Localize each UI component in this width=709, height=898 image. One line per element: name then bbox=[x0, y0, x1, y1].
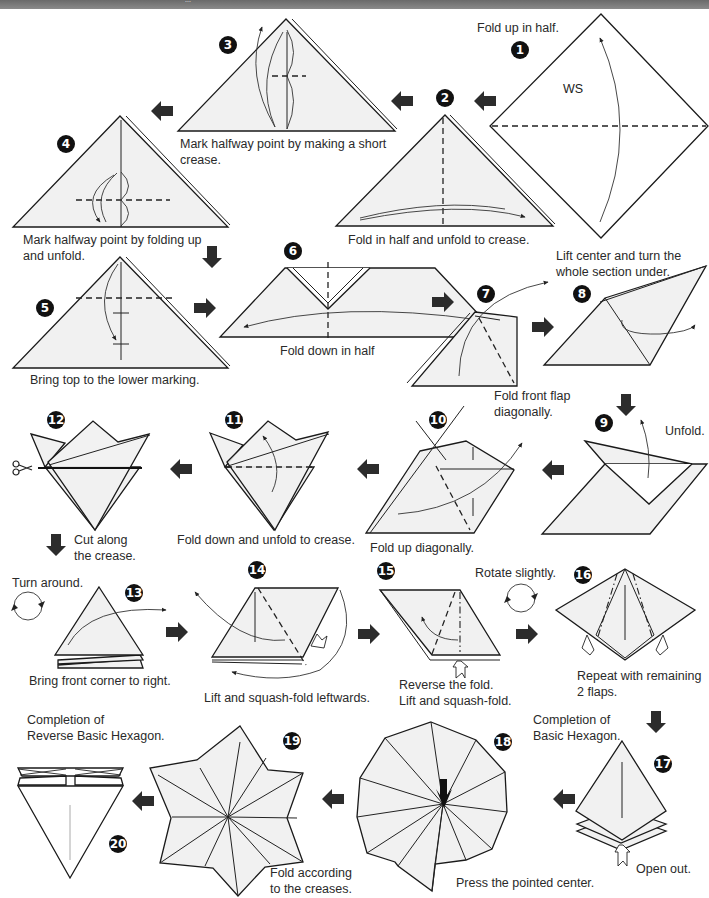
step-number-8: 8 bbox=[573, 285, 591, 303]
step-number-9: 9 bbox=[595, 414, 613, 432]
arrow-17-18 bbox=[553, 789, 575, 809]
step-12-label: Cut along the crease. bbox=[74, 532, 136, 564]
step-20-diagram: 20 bbox=[18, 768, 127, 878]
step-17-label: Open out. bbox=[636, 861, 691, 877]
svg-text:11: 11 bbox=[226, 413, 243, 427]
step-8-diagram: 8 bbox=[544, 266, 706, 365]
push-arrow-icon bbox=[453, 661, 468, 678]
step-11-diagram: 11 bbox=[210, 411, 329, 530]
arrow-3-4 bbox=[151, 101, 173, 121]
svg-text:20: 20 bbox=[110, 837, 127, 851]
step-number-6: 6 bbox=[284, 242, 302, 260]
step-number-20: 20 bbox=[109, 835, 127, 853]
step-9-label: Unfold. bbox=[665, 423, 705, 439]
step-3-label: Mark halfway point by making a short cre… bbox=[180, 136, 386, 168]
step-number-11: 11 bbox=[225, 411, 243, 429]
ws-label: WS bbox=[563, 82, 583, 96]
step-number-7: 7 bbox=[477, 285, 495, 303]
arrow-11-12 bbox=[170, 459, 192, 479]
step-20-label: Completion of Reverse Basic Hexagon. bbox=[27, 712, 165, 744]
svg-text:4: 4 bbox=[62, 137, 70, 151]
step-13-pre-label: Turn around. bbox=[12, 575, 83, 591]
step-3-diagram: 3 bbox=[178, 19, 397, 131]
arrow-16-17 bbox=[646, 711, 666, 733]
svg-text:18: 18 bbox=[495, 735, 512, 749]
arrow-10-11 bbox=[357, 459, 379, 479]
arrow-2-3 bbox=[391, 91, 413, 111]
arrow-15-16 bbox=[516, 624, 538, 644]
svg-text:10: 10 bbox=[430, 413, 447, 427]
diagram-canvas: WS 1 2 3 4 bbox=[0, 0, 709, 898]
arrow-18-19 bbox=[322, 789, 344, 809]
arrow-13-14 bbox=[166, 622, 188, 642]
step-number-17: 17 bbox=[654, 755, 672, 773]
step-18-label: Press the pointed center. bbox=[456, 875, 594, 891]
step-10-diagram: 10 bbox=[366, 406, 522, 533]
svg-text:7: 7 bbox=[482, 287, 490, 301]
step-1-label: Fold up in half. bbox=[477, 20, 559, 36]
arrow-7-8 bbox=[532, 317, 554, 337]
step-number-10: 10 bbox=[429, 411, 447, 429]
svg-text:12: 12 bbox=[48, 413, 65, 427]
svg-text:16: 16 bbox=[575, 568, 592, 582]
arrow-5-6 bbox=[194, 298, 216, 318]
step-11-label: Fold down and unfold to crease. bbox=[177, 532, 355, 548]
step-number-13: 13 bbox=[125, 584, 143, 602]
rotate-icon bbox=[504, 584, 538, 612]
arrow-8-9 bbox=[616, 394, 636, 416]
step-4-label: Mark halfway point by folding up and unf… bbox=[23, 232, 202, 264]
step-14-diagram: 14 bbox=[195, 561, 347, 678]
push-arrow-icon bbox=[615, 845, 630, 866]
arrow-19-20 bbox=[132, 791, 154, 811]
push-arrow-icon bbox=[656, 635, 668, 655]
svg-text:2: 2 bbox=[441, 91, 449, 105]
svg-text:8: 8 bbox=[578, 287, 586, 301]
step-19-label: Fold according to the creases. bbox=[270, 865, 352, 897]
step-5-label: Bring top to the lower marking. bbox=[30, 372, 200, 388]
step-4-diagram: 4 bbox=[13, 116, 230, 227]
arrow-9-10 bbox=[542, 460, 564, 480]
svg-text:13: 13 bbox=[126, 586, 143, 600]
arrow-12-13 bbox=[46, 534, 66, 556]
svg-text:6: 6 bbox=[289, 244, 297, 258]
svg-text:14: 14 bbox=[249, 563, 266, 577]
step-7-label: Fold front flap diagonally. bbox=[494, 388, 570, 420]
step-15-pre-label: Rotate slightly. bbox=[475, 565, 556, 581]
svg-text:1: 1 bbox=[516, 43, 524, 57]
step-8-label: Lift center and turn the whole section u… bbox=[556, 248, 681, 280]
push-arrow-icon bbox=[582, 635, 594, 655]
step-number-18: 18 bbox=[494, 733, 512, 751]
step-14-label: Lift and squash-fold leftwards. bbox=[204, 690, 370, 706]
step-2-label: Fold in half and unfold to crease. bbox=[348, 232, 529, 248]
step-17-pre-label: Completion of Basic Hexagon. bbox=[533, 712, 621, 744]
step-16-diagram: 16 bbox=[556, 566, 695, 660]
step-18-diagram: 18 bbox=[357, 722, 512, 891]
step-6-label: Fold down in half bbox=[280, 343, 375, 359]
step-number-19: 19 bbox=[283, 732, 301, 750]
svg-text:5: 5 bbox=[41, 301, 49, 315]
step-13-diagram: 13 bbox=[11, 584, 166, 668]
step-number-3: 3 bbox=[219, 36, 237, 54]
step-number-4: 4 bbox=[57, 135, 75, 153]
step-number-15: 15 bbox=[377, 562, 395, 580]
svg-text:17: 17 bbox=[655, 757, 672, 771]
svg-text:15: 15 bbox=[378, 564, 395, 578]
step-15-label: Reverse the fold. Lift and squash-fold. bbox=[399, 677, 512, 709]
arrow-4-5 bbox=[202, 246, 222, 268]
step-number-16: 16 bbox=[574, 566, 592, 584]
step-number-2: 2 bbox=[436, 89, 454, 107]
step-6-diagram: 6 bbox=[220, 242, 500, 340]
svg-text:3: 3 bbox=[224, 38, 232, 52]
step-number-1: 1 bbox=[511, 41, 529, 59]
step-13-label: Bring front corner to right. bbox=[29, 673, 171, 689]
step-10-label: Fold up diagonally. bbox=[370, 540, 474, 556]
rotate-icon bbox=[11, 592, 45, 620]
step-16-label: Repeat with remaining 2 flaps. bbox=[577, 668, 701, 700]
scissors-icon bbox=[13, 461, 32, 475]
step-number-14: 14 bbox=[248, 561, 266, 579]
svg-text:9: 9 bbox=[600, 416, 608, 430]
svg-text:19: 19 bbox=[284, 734, 301, 748]
arrow-1-2 bbox=[474, 91, 496, 111]
step-12-diagram: 12 bbox=[13, 411, 150, 530]
step-17-diagram: 17 bbox=[576, 741, 672, 866]
